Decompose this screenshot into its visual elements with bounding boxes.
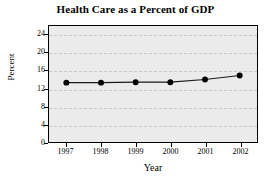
data-point-marker	[63, 80, 69, 86]
y-axis-tick-mark	[44, 125, 48, 126]
y-axis-tick-mark	[44, 89, 48, 90]
y-axis-tick-mark	[44, 52, 48, 53]
y-axis-tick-label: 20	[29, 48, 45, 56]
x-axis-tick-label: 1999	[118, 147, 154, 156]
y-axis-title: Percent	[6, 42, 16, 92]
plot-area	[48, 25, 258, 143]
x-axis-tick-mark	[241, 143, 242, 147]
x-axis-tick-mark	[101, 143, 102, 147]
x-axis-tick-label: 1998	[83, 147, 119, 156]
series-line	[66, 76, 239, 83]
plot-inner	[49, 26, 257, 142]
y-axis-tick-mark	[44, 107, 48, 108]
data-series-line	[49, 26, 257, 142]
x-axis-tick-mark	[206, 143, 207, 147]
data-point-marker	[237, 73, 243, 79]
x-axis-tick-label: 2001	[188, 147, 224, 156]
y-axis-tick-labels: 04812162024	[26, 25, 45, 143]
data-point-marker	[133, 79, 139, 85]
x-axis-tick-mark	[171, 143, 172, 147]
y-axis-tick-label: 0	[29, 139, 45, 147]
x-axis-tick-label: 1997	[48, 147, 84, 156]
y-axis-tick-label: 8	[29, 103, 45, 111]
data-point-marker	[167, 79, 173, 85]
y-axis-tick-mark	[44, 70, 48, 71]
chart-title: Health Care as a Percent of GDP	[0, 3, 271, 15]
y-axis-tick-label: 4	[29, 121, 45, 129]
x-axis-tick-labels: 199719981999200020012002	[48, 147, 258, 159]
x-axis-tick-mark	[136, 143, 137, 147]
y-axis-tick-mark	[44, 143, 48, 144]
x-axis-tick-label: 2000	[153, 147, 189, 156]
y-axis-tick-mark	[44, 34, 48, 35]
x-axis-tick-label: 2002	[223, 147, 259, 156]
y-axis-tick-label: 16	[29, 66, 45, 74]
chart-container: Health Care as a Percent of GDP Percent …	[0, 0, 271, 183]
y-axis-tick-label: 24	[29, 30, 45, 38]
x-axis-title: Year	[48, 162, 258, 173]
x-axis-tick-mark	[66, 143, 67, 147]
data-point-marker	[98, 80, 104, 86]
y-axis-tick-label: 12	[29, 85, 45, 93]
data-point-marker	[202, 77, 208, 83]
